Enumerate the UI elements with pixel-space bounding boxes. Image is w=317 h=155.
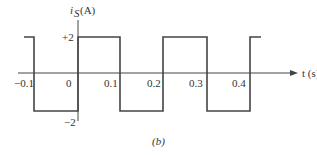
xtick-0-2: 0.2 <box>147 77 161 89</box>
x-axis-label: t (s) <box>302 67 317 80</box>
x-axis-arrow-icon <box>290 70 298 76</box>
figure-caption: (b) <box>152 135 165 148</box>
y-axis-label-unit: (A) <box>80 4 96 17</box>
xtick-0-3: 0.3 <box>189 77 203 89</box>
xtick-0: 0 <box>66 77 72 89</box>
ytick-pos2: +2 <box>62 31 74 43</box>
square-wave-trace <box>24 37 261 111</box>
square-wave-chart: i S (A) +2 −2 −0.1 0 0.1 0.2 0.3 0.4 t (… <box>0 0 317 155</box>
xtick-minus-0-1: −0.1 <box>14 77 34 89</box>
xtick-0-4: 0.4 <box>232 77 246 89</box>
ytick-neg2: −2 <box>64 116 76 128</box>
xtick-0-1: 0.1 <box>104 77 118 89</box>
y-axis-label-i: i <box>70 4 73 16</box>
